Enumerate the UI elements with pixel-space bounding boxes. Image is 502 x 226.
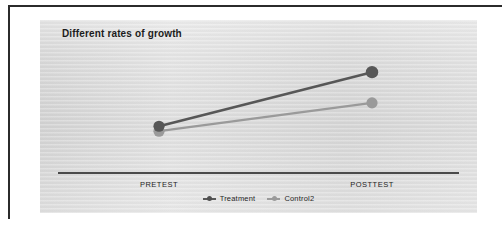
legend-item-control2: Control2 (267, 194, 314, 203)
x-tick-label-pretest: PRETEST (140, 180, 178, 189)
data-point-treatment-posttest (366, 66, 378, 78)
legend-label-treatment: Treatment (220, 194, 256, 203)
legend-marker-control2-icon (267, 195, 280, 202)
data-point-control2-posttest (366, 97, 377, 108)
plot-area (40, 20, 477, 213)
legend-label-control2: Control2 (284, 194, 314, 203)
chart-panel: Different rates of growth PRETEST POSTTE… (40, 20, 477, 213)
legend-marker-treatment-icon (203, 195, 216, 202)
page-border-left (8, 5, 10, 219)
chart-legend: Treatment Control2 (40, 194, 477, 203)
page-border-top (8, 5, 502, 7)
legend-item-treatment: Treatment (203, 194, 256, 203)
figure-root: Different rates of growth PRETEST POSTTE… (0, 0, 502, 226)
data-point-treatment-pretest (153, 121, 164, 132)
x-tick-label-posttest: POSTTEST (350, 180, 394, 189)
